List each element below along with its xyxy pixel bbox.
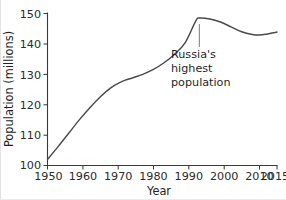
y-axis-ticks bbox=[44, 14, 48, 166]
x-tick-label-1960: 1960 bbox=[69, 170, 97, 183]
x-axis-ticks bbox=[48, 166, 278, 170]
x-tick-label-1970: 1970 bbox=[104, 170, 132, 183]
chart-figure: 150 140 130 120 110 100 1950 1960 1970 1… bbox=[0, 0, 286, 200]
x-tick-label-1980: 1980 bbox=[139, 170, 167, 183]
y-tick-label-110: 110 bbox=[20, 129, 41, 142]
axis-lines bbox=[48, 13, 278, 166]
x-axis-title: Year bbox=[146, 184, 171, 198]
annotation-line-3: population bbox=[171, 76, 231, 89]
line-chart: 150 140 130 120 110 100 1950 1960 1970 1… bbox=[1, 0, 286, 200]
x-tick-label-2000: 2000 bbox=[210, 170, 238, 183]
x-tick-label-2015: 2015 bbox=[261, 170, 286, 183]
population-line bbox=[48, 18, 278, 159]
y-tick-label-150: 150 bbox=[20, 8, 41, 21]
annotation-line-2: highest bbox=[171, 62, 213, 75]
annotation-line-1: Russia's bbox=[171, 48, 216, 61]
y-tick-label-120: 120 bbox=[20, 99, 41, 112]
y-tick-label-140: 140 bbox=[20, 38, 41, 51]
y-tick-label-130: 130 bbox=[20, 69, 41, 82]
x-tick-label-1990: 1990 bbox=[175, 170, 203, 183]
x-tick-label-1950: 1950 bbox=[34, 170, 62, 183]
y-axis-title: Population (millions) bbox=[2, 31, 16, 147]
